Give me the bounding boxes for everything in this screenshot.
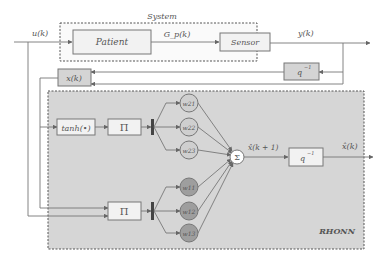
state-label: x(k)	[66, 74, 82, 83]
splitter-bottom	[151, 202, 154, 220]
rhonn-label: RHONN	[318, 226, 355, 236]
delay-top-q: q	[297, 68, 302, 77]
system-title: System	[147, 12, 177, 21]
delay-top-exp: −1	[304, 64, 311, 70]
input-label: u(k)	[32, 29, 48, 38]
weights-upper: w21 w22 w23	[180, 94, 198, 159]
predicted-label: x̂(k)	[342, 142, 358, 151]
weight-w13: w13	[183, 230, 196, 237]
product-top-label: Π	[120, 122, 129, 133]
delay-bottom-exp: −1	[307, 150, 314, 156]
delay-bottom-q: q	[300, 154, 305, 163]
weight-w23: w23	[183, 147, 196, 154]
weight-w11: w11	[183, 184, 196, 191]
delay-block-bottom	[289, 148, 323, 166]
patient-label: Patient	[95, 37, 129, 47]
weight-w12: w12	[183, 208, 196, 215]
splitter-top	[151, 119, 154, 135]
product-bottom-label: Π	[120, 206, 129, 217]
sum-label: Σ	[234, 153, 240, 162]
tanh-label: tanh(•)	[61, 124, 90, 133]
weight-w21: w21	[183, 100, 196, 107]
transfer-label: G_p(k)	[164, 30, 191, 39]
weights-lower: w11 w12 w13	[180, 178, 198, 242]
predicted-next-label: x̂(k + 1)	[248, 143, 279, 152]
output-label: y(k)	[297, 29, 314, 38]
weight-w22: w22	[183, 124, 196, 131]
rhonn-block-diagram: System u(k) Patient G_p(k) Sensor y(k) q…	[0, 0, 391, 264]
sensor-label: Sensor	[231, 38, 260, 47]
